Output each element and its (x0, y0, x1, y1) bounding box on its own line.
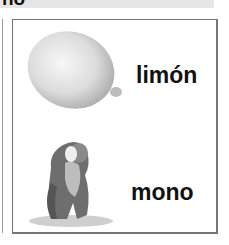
monkey-image (21, 123, 121, 231)
adjacent-card-edge (2, 19, 3, 233)
header-band: no (0, 0, 214, 8)
header-title: no (2, 0, 25, 8)
vocabulary-card: limón mono (12, 19, 218, 234)
word-mono: mono (131, 179, 194, 206)
word-limon: limón (136, 62, 197, 89)
lemon-image (19, 22, 129, 112)
